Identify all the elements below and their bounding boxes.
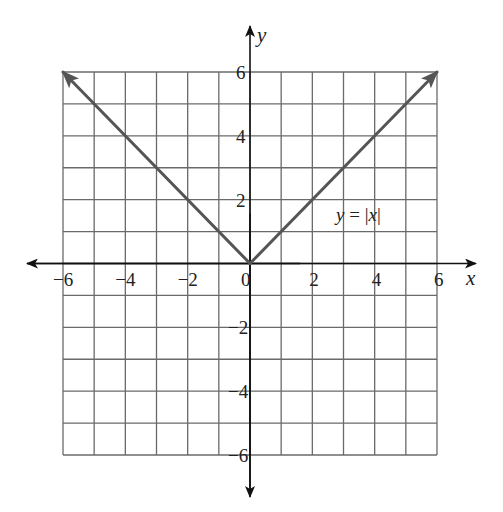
y-axis-label: y bbox=[255, 23, 267, 47]
function-label-equals: = bbox=[344, 204, 364, 225]
y-tick-label: −2 bbox=[228, 317, 248, 338]
x-tick-label: 4 bbox=[372, 269, 382, 290]
x-tick-label: −6 bbox=[53, 269, 73, 290]
function-label-y: y bbox=[334, 204, 345, 225]
y-tick-label: −4 bbox=[228, 381, 249, 402]
x-tick-label: −2 bbox=[178, 269, 198, 290]
chart: −6−4−20246−6−4−2246 x y y = |x| bbox=[0, 0, 503, 512]
x-tick-label: 6 bbox=[434, 269, 444, 290]
function-label-bar-close: | bbox=[377, 204, 381, 225]
y-tick-label: −6 bbox=[228, 445, 248, 466]
function-label: y = |x| bbox=[334, 204, 381, 225]
y-tick-label: 6 bbox=[236, 62, 246, 83]
y-tick-label: 2 bbox=[236, 190, 246, 211]
y-tick-label: 4 bbox=[236, 126, 246, 147]
x-tick-label: −4 bbox=[115, 269, 136, 290]
x-tick-label: 2 bbox=[309, 269, 319, 290]
x-axis-label: x bbox=[465, 266, 476, 290]
x-tick-label: 0 bbox=[241, 269, 251, 290]
